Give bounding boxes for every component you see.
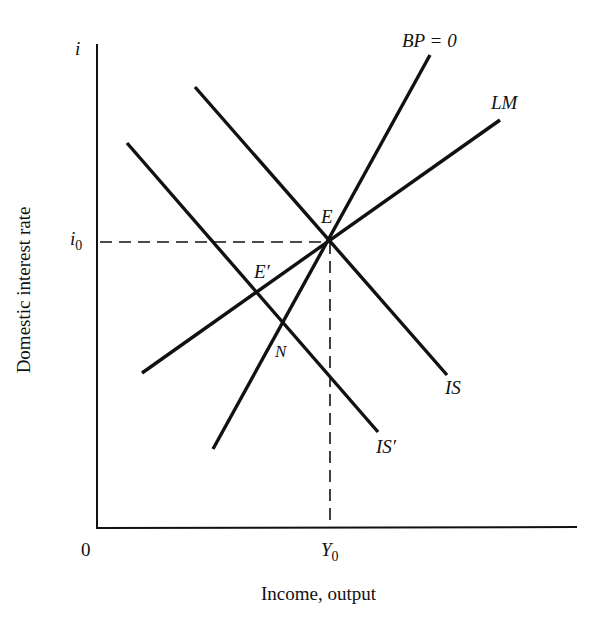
is-prime-curve-label: IS′ — [376, 436, 396, 458]
x-axis — [96, 527, 577, 528]
origin-label: 0 — [81, 539, 91, 561]
point-n-label: N — [275, 342, 286, 362]
is-curve-label: IS — [445, 377, 461, 399]
lm-curve-label: LM — [491, 92, 517, 114]
lm-curve — [142, 120, 500, 373]
i0-label: i0 — [70, 228, 82, 250]
y-axis-symbol: i — [75, 38, 80, 60]
i0-subscript: 0 — [75, 238, 82, 253]
y0-subscript: 0 — [332, 549, 339, 564]
is-prime-curve — [127, 143, 378, 432]
bp-curve — [213, 55, 430, 449]
y-axis-title: Domestic interest rate — [13, 207, 35, 374]
bp-curve-label: BP = 0 — [402, 30, 457, 52]
point-e-prime-label: E′ — [254, 261, 270, 283]
point-e-label: E — [321, 206, 333, 228]
is-curve — [195, 87, 447, 375]
y0-label: Y0 — [321, 539, 339, 561]
y0-symbol: Y — [321, 539, 332, 560]
x-axis-title: Income, output — [261, 583, 376, 605]
